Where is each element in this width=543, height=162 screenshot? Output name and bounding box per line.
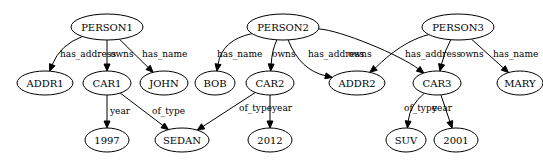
node-label: PERSON1 (81, 22, 133, 33)
arrowhead-icon (447, 121, 453, 129)
node-car3: CAR3 (413, 71, 461, 95)
arrowhead-icon (439, 64, 445, 72)
node-mary: MARY (497, 71, 543, 95)
edge-label: has_name (493, 49, 538, 60)
arrowhead-icon (267, 121, 273, 128)
arrowhead-icon (268, 64, 274, 71)
edge-label: owns (460, 49, 484, 59)
arrowhead-icon (197, 124, 205, 130)
node-label: BOB (203, 78, 226, 89)
edge-label: year (109, 106, 131, 116)
node-addr1: ADDR1 (17, 71, 73, 95)
node-label: SEDAN (163, 135, 201, 146)
node-label: JOHN (148, 78, 179, 89)
edge-label: has_name (142, 49, 187, 60)
edge-car3-y2001: year (431, 95, 453, 128)
node-suv: SUV (386, 128, 426, 152)
edge-label: year (271, 103, 293, 113)
edge-label: has_address (405, 49, 461, 60)
edge-label: owns (348, 49, 372, 59)
node-person1: PERSON1 (71, 14, 143, 40)
node-person3: PERSON3 (422, 14, 494, 40)
arrowhead-icon (50, 64, 56, 72)
node-y1997: 1997 (85, 128, 129, 152)
edge-person2-car2: owns (268, 40, 296, 71)
edge-label: year (431, 103, 453, 113)
node-label: CAR2 (256, 78, 285, 89)
knowledge-graph: has_addressownshas_namehas_nameownshas_a… (0, 0, 543, 162)
arrowhead-icon (405, 121, 411, 128)
node-label: 2012 (257, 135, 282, 146)
node-car1: CAR1 (83, 71, 131, 95)
node-label: MARY (504, 78, 536, 89)
node-label: CAR1 (93, 78, 122, 89)
edge-car1-y1997: year (104, 95, 131, 128)
node-label: ADDR1 (25, 78, 63, 89)
edge-label: owns (272, 49, 296, 59)
arrowhead-icon (416, 66, 423, 73)
node-label: 1997 (94, 135, 119, 146)
node-car2: CAR2 (246, 71, 294, 95)
node-bob: BOB (195, 71, 235, 95)
node-label: 2001 (443, 135, 468, 146)
node-label: ADDR2 (337, 78, 375, 89)
arrowhead-icon (215, 64, 221, 71)
node-label: PERSON3 (432, 22, 484, 33)
node-label: CAR3 (423, 78, 452, 89)
arrowhead-icon (161, 123, 168, 130)
node-y2012: 2012 (248, 128, 292, 152)
node-label: SUV (395, 135, 418, 146)
arrowhead-icon (104, 121, 110, 128)
node-label: PERSON2 (257, 22, 309, 33)
arrowhead-icon (104, 64, 110, 71)
edge-car2-sedan: of_type (197, 93, 272, 131)
node-y2001: 2001 (434, 128, 478, 152)
edge-label: of_type (239, 103, 272, 114)
edge-label: has_address (60, 49, 116, 60)
edge-person2-bob: has_name (215, 34, 262, 72)
edge-label: of_type (152, 106, 185, 117)
edge-label: has_name (217, 49, 262, 60)
node-sedan: SEDAN (155, 128, 209, 152)
node-john: JOHN (140, 71, 188, 95)
node-person2: PERSON2 (247, 14, 319, 40)
node-addr2: ADDR2 (329, 71, 385, 95)
